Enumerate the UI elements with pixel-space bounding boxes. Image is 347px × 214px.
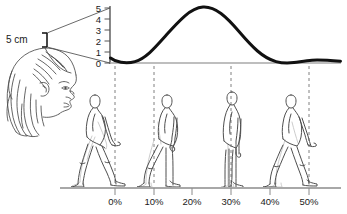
y-tick-label-1: 1: [89, 48, 101, 58]
y-tick-label-0: 0: [89, 59, 101, 69]
x-tick-label-50: 50%: [292, 197, 326, 207]
y-tick-label-4: 4: [89, 15, 101, 25]
x-tick-label-0: 0%: [98, 197, 132, 207]
walker-0-percent: [71, 95, 125, 187]
dashed-guides: [115, 66, 309, 186]
x-axis-ticks: [115, 188, 309, 195]
y-tick-label-5: 5: [89, 4, 101, 14]
y-tick-label-2: 2: [89, 37, 101, 47]
walker-10-percent: [137, 95, 180, 187]
five-cm-label: 5 cm: [6, 34, 28, 45]
x-tick-label-20: 20%: [175, 197, 209, 207]
figure-canvas: [0, 0, 347, 214]
gait-head-displacement-figure: 5 cm 5 4 3 2 1 0 0% 10% 20% 30% 40% 50%: [0, 0, 347, 214]
five-cm-bracket: [42, 33, 47, 47]
woman-head-profile: [7, 48, 76, 137]
y-tick-label-3: 3: [89, 26, 101, 36]
x-tick-label-40: 40%: [253, 197, 287, 207]
y-axis: [105, 6, 111, 64]
x-tick-label-30: 30%: [214, 197, 248, 207]
head-displacement-curve: [111, 7, 341, 63]
x-tick-label-10: 10%: [137, 197, 171, 207]
